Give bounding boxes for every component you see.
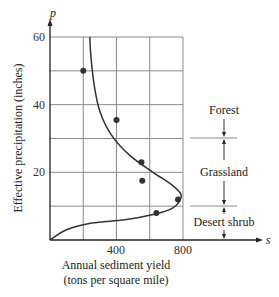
zone-label-grassland: Grassland [200,165,248,179]
desert-arrow-down-icon [222,234,226,239]
y-tick-40: 40 [33,98,45,112]
grassland-arrow-down-icon [222,200,226,205]
forest-arrow-down-icon [222,132,226,137]
sediment-precipitation-chart: p s 60 40 20 400 800 Effective precipita… [0,0,279,297]
y-axis-arrow-icon [48,19,53,26]
data-point-4 [139,178,145,184]
x-axis-variable: s [266,233,271,247]
x-tick-400: 400 [107,243,125,257]
data-point-6 [153,210,159,216]
axes: p s [48,6,271,247]
data-point-3 [138,159,144,165]
y-tick-60: 60 [33,30,45,44]
x-axis-label-line2: (tons per square mile) [64,273,169,287]
y-axis-variable: p [49,6,56,20]
x-axis-label-line1: Annual sediment yield [62,258,171,272]
data-point-1 [80,68,86,74]
vegetation-zones: Forest Grassland Desert shrub [190,103,254,239]
zone-label-forest: Forest [209,103,240,117]
x-axis-arrow-icon [256,238,263,243]
x-tick-800: 800 [174,243,192,257]
y-tick-20: 20 [33,165,45,179]
data-point-2 [114,117,120,123]
data-point-5 [175,196,181,202]
tick-labels: 60 40 20 400 800 [33,30,192,257]
grid-lines [50,37,183,240]
zone-label-desert-shrub: Desert shrub [194,215,255,229]
y-axis-label: Effective precipitation (inches) [11,63,25,212]
